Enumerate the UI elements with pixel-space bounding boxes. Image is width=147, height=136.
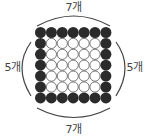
bottom-count-label: 7개	[66, 123, 83, 136]
white-stone	[90, 71, 100, 81]
white-stone	[90, 38, 100, 48]
bottom-arc	[37, 108, 110, 118]
black-stone	[35, 38, 46, 49]
left-arc	[22, 42, 31, 96]
white-stone	[46, 60, 56, 70]
black-stone	[100, 38, 111, 49]
white-stone	[46, 71, 56, 81]
black-stone	[35, 60, 46, 71]
white-stone	[57, 60, 67, 70]
black-stone	[68, 92, 79, 103]
white-stone	[79, 38, 89, 48]
white-stone	[90, 82, 100, 92]
white-stone	[57, 38, 67, 48]
white-stone	[79, 60, 89, 70]
black-stone	[57, 27, 68, 38]
black-stone	[35, 49, 46, 60]
white-stone	[57, 82, 67, 92]
white-stone	[68, 82, 78, 92]
black-stone	[35, 71, 46, 82]
white-stone	[68, 49, 78, 59]
white-stone	[68, 38, 78, 48]
white-stone	[57, 49, 67, 59]
black-stone	[100, 49, 111, 60]
top-count-label: 7개	[66, 1, 83, 14]
left-count-label: 5개	[5, 61, 22, 74]
white-stone	[90, 49, 100, 59]
circle-grid	[35, 27, 111, 103]
white-stone	[90, 60, 100, 70]
black-stone	[90, 92, 101, 103]
top-arc	[37, 16, 110, 26]
white-stone	[68, 71, 78, 81]
black-stone	[46, 27, 57, 38]
right-arc	[116, 42, 125, 96]
stone-grid-diagram: 7개 7개 5개 5개	[0, 0, 147, 136]
black-stone	[35, 92, 46, 103]
white-stone	[79, 71, 89, 81]
black-stone	[35, 27, 46, 38]
black-stone	[68, 27, 79, 38]
black-stone	[46, 92, 57, 103]
black-stone	[100, 71, 111, 82]
black-stone	[35, 82, 46, 93]
white-stone	[46, 38, 56, 48]
right-count-label: 5개	[127, 61, 144, 74]
white-stone	[46, 82, 56, 92]
white-stone	[79, 82, 89, 92]
white-stone	[79, 49, 89, 59]
black-stone	[79, 27, 90, 38]
black-stone	[100, 82, 111, 93]
white-stone	[68, 60, 78, 70]
black-stone	[90, 27, 101, 38]
black-stone	[79, 92, 90, 103]
black-stone	[57, 92, 68, 103]
white-stone	[46, 49, 56, 59]
white-stone	[57, 71, 67, 81]
black-stone	[100, 27, 111, 38]
black-stone	[100, 92, 111, 103]
black-stone	[100, 60, 111, 71]
